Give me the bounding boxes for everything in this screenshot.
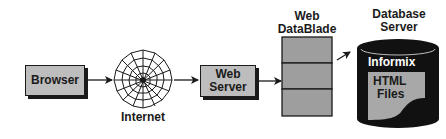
web-server-node: Web Server (200, 65, 256, 97)
browser-label: Browser (31, 74, 79, 87)
web-datablade-title-line2: DataBlade (270, 23, 344, 36)
html-files-label: HTML Files (373, 75, 423, 101)
html-files-label-line2: Files (373, 88, 423, 101)
database-server-title-line2: Server (358, 21, 440, 34)
web-server-label-line2: Server (209, 81, 246, 94)
web-datablade-title: Web DataBlade (270, 10, 344, 36)
browser-node: Browser (25, 65, 85, 96)
datablade-stack (282, 37, 332, 116)
arrow-datablade-to-database (337, 52, 350, 60)
internet-label: Internet (118, 111, 168, 124)
web-globe-icon (114, 50, 172, 108)
database-server-title: Database Server (358, 8, 440, 34)
informix-label: Informix (364, 56, 438, 69)
